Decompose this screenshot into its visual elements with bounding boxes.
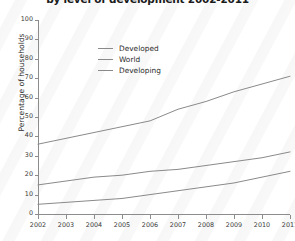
x-axis-tick-mark bbox=[178, 215, 179, 219]
series-line-world bbox=[38, 152, 290, 185]
x-axis-tick-mark bbox=[150, 215, 151, 219]
x-axis-tick-mark bbox=[66, 215, 67, 219]
y-axis-tick-mark bbox=[35, 195, 39, 196]
x-axis-tick-mark bbox=[38, 215, 39, 219]
y-axis-tick-mark bbox=[35, 98, 39, 99]
y-axis-tick: 0 bbox=[15, 210, 33, 216]
y-axis-tick: 60 bbox=[15, 94, 33, 100]
y-axis-tick-mark bbox=[35, 156, 39, 157]
y-axis-tick-mark bbox=[35, 117, 39, 118]
x-axis-tick: 2011 bbox=[270, 221, 295, 229]
y-axis-tick-mark bbox=[35, 20, 39, 21]
x-axis-tick-mark bbox=[290, 215, 291, 219]
legend-line-icon bbox=[98, 59, 113, 60]
legend-item: World bbox=[98, 54, 161, 65]
y-axis-tick-mark bbox=[35, 78, 39, 79]
y-axis-tick: 10 bbox=[15, 191, 33, 197]
chart-title: by level of development 2002-2011 bbox=[0, 0, 295, 5]
y-axis-tick: 30 bbox=[15, 152, 33, 158]
x-axis-tick-mark bbox=[234, 215, 235, 219]
series-line-developed bbox=[38, 76, 290, 144]
chart-plot-area bbox=[0, 0, 295, 241]
y-axis-tick: 50 bbox=[15, 113, 33, 119]
legend-line-icon bbox=[98, 48, 113, 49]
y-axis-tick-mark bbox=[35, 59, 39, 60]
legend-label: World bbox=[119, 55, 140, 64]
legend-item: Developing bbox=[98, 65, 161, 76]
x-axis-tick-mark bbox=[262, 215, 263, 219]
chart-legend: DevelopedWorldDeveloping bbox=[98, 43, 161, 76]
y-axis-tick: 90 bbox=[15, 35, 33, 41]
x-axis-tick-mark bbox=[122, 215, 123, 219]
y-axis-tick: 20 bbox=[15, 171, 33, 177]
y-axis-tick: 80 bbox=[15, 55, 33, 61]
y-axis-tick-mark bbox=[35, 175, 39, 176]
legend-line-icon bbox=[98, 70, 113, 71]
legend-item: Developed bbox=[98, 43, 161, 54]
x-axis-tick-mark bbox=[206, 215, 207, 219]
x-axis-tick-mark bbox=[94, 215, 95, 219]
y-axis-tick-labels: 0102030405060708090100 bbox=[13, 0, 33, 241]
y-axis-tick: 100 bbox=[15, 16, 33, 22]
y-axis-tick: 40 bbox=[15, 132, 33, 138]
y-axis-tick-mark bbox=[35, 39, 39, 40]
x-axis-line bbox=[38, 214, 290, 215]
legend-label: Developing bbox=[119, 66, 161, 75]
legend-label: Developed bbox=[119, 44, 159, 53]
y-axis-tick-mark bbox=[35, 136, 39, 137]
y-axis-tick: 70 bbox=[15, 74, 33, 80]
series-line-developing bbox=[38, 171, 290, 204]
